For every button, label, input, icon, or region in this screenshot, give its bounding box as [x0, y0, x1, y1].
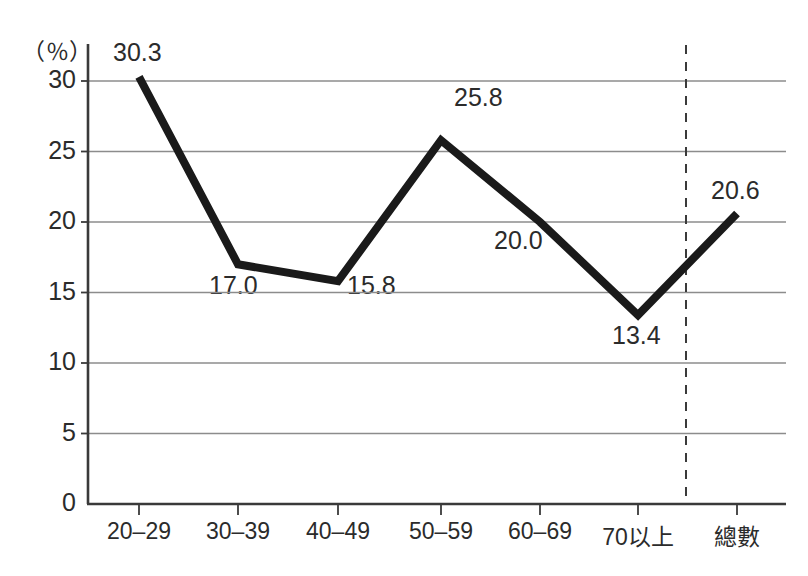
data-series-line [139, 77, 737, 315]
line-chart-plot [0, 0, 808, 576]
chart-container: （％） 051015202530 20–2930–3940–4950–5960–… [0, 0, 808, 576]
grid-lines [88, 81, 786, 434]
x-axis-tick-marks [139, 504, 737, 515]
series-polyline [139, 77, 737, 315]
